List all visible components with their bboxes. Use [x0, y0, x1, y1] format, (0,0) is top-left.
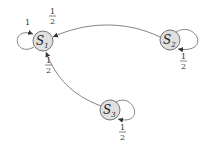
- label-s1-self: 1: [25, 18, 30, 27]
- label-s3-to-s1: 1 2: [45, 56, 52, 75]
- markov-chain-diagram: S1 S2 S3 1 1 2 1 2 1 2 1 2: [0, 0, 213, 153]
- svg-text:1: 1: [120, 123, 125, 132]
- svg-text:1: 1: [46, 56, 51, 65]
- label-s3-self: 1 2: [119, 123, 126, 142]
- node-s3: S3: [100, 100, 120, 120]
- svg-text:2: 2: [120, 133, 125, 142]
- svg-text:2: 2: [181, 62, 186, 71]
- svg-text:2: 2: [46, 66, 51, 75]
- label-s2-to-s1: 1 2: [49, 7, 56, 26]
- node-s2: S2: [160, 30, 180, 50]
- svg-text:2: 2: [50, 17, 55, 26]
- svg-text:1: 1: [181, 52, 186, 61]
- node-s1: S1: [33, 31, 53, 51]
- edge-s3-to-s1: [46, 52, 101, 106]
- label-s2-self: 1 2: [180, 52, 187, 71]
- edge-s1-self-loop: [17, 33, 34, 50]
- edge-s2-to-s1: [53, 25, 160, 37]
- svg-text:1: 1: [50, 7, 55, 16]
